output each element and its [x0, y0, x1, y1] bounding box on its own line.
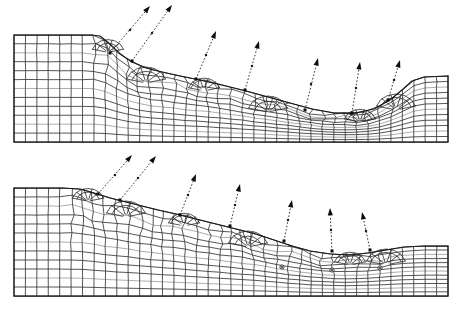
mesh-col-line	[48, 35, 49, 142]
vector-origin-node	[283, 240, 286, 243]
vector-mid-marker	[365, 230, 367, 232]
vector-origin-node	[229, 225, 232, 228]
vector-mid-marker	[151, 32, 153, 34]
vector-origin-node	[387, 99, 390, 102]
vector-mid-marker	[355, 87, 357, 89]
vector-origin-node	[369, 249, 372, 252]
vector-origin-node	[109, 52, 112, 55]
vector-mid-marker	[330, 229, 332, 231]
vector-origin-node	[97, 193, 100, 196]
mesh-col-line	[48, 188, 49, 296]
vector-mid-marker	[287, 219, 289, 221]
figure-root	[0, 0, 460, 311]
vector-mid-marker	[234, 204, 236, 206]
mesh-col-line	[436, 76, 437, 142]
vector-mid-marker	[393, 79, 395, 81]
vector-origin-node	[195, 78, 198, 81]
ring-node-center	[331, 269, 333, 271]
vector-mid-marker	[114, 174, 116, 176]
ring-node-center	[281, 266, 283, 268]
vector-origin-node	[244, 89, 247, 92]
vector-mid-marker	[187, 194, 189, 196]
vector-origin-node	[119, 199, 122, 202]
vector-origin-node	[331, 250, 334, 253]
vector-mid-marker	[205, 54, 207, 56]
vector-origin-node	[304, 109, 307, 112]
vector-mid-marker	[310, 83, 312, 85]
vector-origin-node	[351, 112, 354, 115]
vector-origin-node	[179, 214, 182, 217]
ring-node-center	[379, 267, 381, 269]
vector-mid-marker	[137, 177, 139, 179]
vector-mid-marker	[251, 65, 253, 67]
vector-origin-node	[131, 60, 134, 63]
mesh-col-line	[59, 35, 60, 142]
deformed-mesh-figure	[0, 0, 460, 311]
vector-mid-marker	[129, 29, 131, 31]
